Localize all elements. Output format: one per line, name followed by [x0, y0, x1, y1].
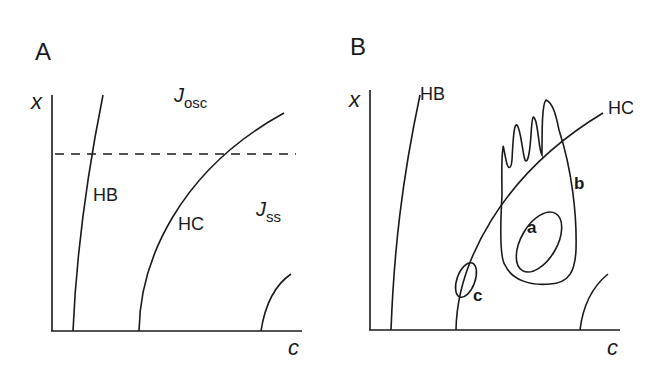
panel-a-hb-label: HB	[93, 185, 118, 205]
panel-b-trajectory-a-label: a	[527, 218, 537, 237]
panel-b-hb-label: HB	[420, 84, 445, 104]
panel-a-j-osc-label: Josc	[173, 84, 208, 111]
panel-b-hb-curve	[391, 95, 420, 330]
panel-b-letter: B	[350, 33, 366, 60]
panel-a-x-axis-label: c	[288, 335, 299, 360]
panel-a-hb-curve	[73, 95, 103, 331]
bifurcation-diagram-figure: A x c HB HC Josc Jss B x c	[0, 0, 657, 367]
panel-b-trajectory-a	[507, 204, 571, 279]
panel-b-trajectory-c-label: c	[473, 286, 482, 305]
panel-b-hc-label: HC	[608, 98, 634, 118]
panel-b-y-axis-label: x	[348, 87, 361, 112]
panel-a-lower-curve	[261, 274, 291, 331]
panel-b-lower-curve	[580, 274, 608, 330]
panel-a-letter: A	[35, 38, 51, 65]
panel-a-hc-curve	[139, 113, 284, 331]
panel-a-y-axis-label: x	[30, 89, 43, 114]
panel-b-x-axis-label: c	[607, 335, 618, 360]
panel-b-trajectory-b-label: b	[574, 174, 584, 193]
panel-a-hc-label: HC	[178, 214, 204, 234]
panel-a-j-ss-label: Jss	[255, 198, 281, 225]
panel-b: B x c HB HC a b c	[348, 33, 634, 360]
panel-a: A x c HB HC Josc Jss	[30, 38, 302, 360]
